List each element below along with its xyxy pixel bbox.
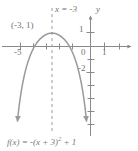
parabola-figure: (-3, 1) x = -3 y -5 0 1 1 -2 f(x) = -(x … — [0, 0, 138, 151]
axis-of-symmetry-label: x = -3 — [55, 5, 77, 14]
origin-label: 0 — [81, 48, 86, 57]
parabola-curve — [19, 126, 21, 128]
x-tick-label-1: 1 — [102, 48, 107, 57]
equation-caption-main: f(x) = -(x + 3) — [7, 137, 58, 147]
x-tick-label-neg5: -5 — [14, 48, 22, 57]
equation-caption: f(x) = -(x + 3)2 + 1 — [7, 136, 76, 147]
y-axis-label: y — [96, 5, 100, 14]
vertex-label: (-3, 1) — [11, 21, 34, 30]
y-tick-label-neg2: -2 — [78, 64, 86, 73]
y-tick-label-1: 1 — [79, 25, 84, 34]
equation-caption-tail: + 1 — [61, 137, 76, 147]
